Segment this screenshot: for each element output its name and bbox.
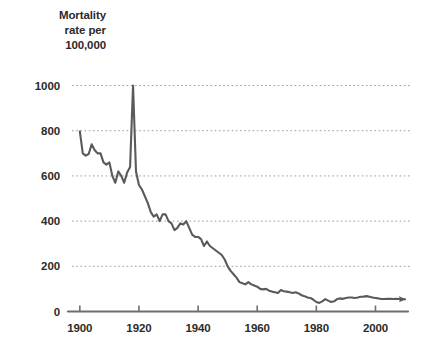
gridlines (72, 86, 410, 267)
mortality-data-line (80, 86, 405, 303)
y-axis-tick-label: 0 (12, 306, 60, 318)
y-axis-tick-label: 600 (12, 170, 60, 182)
x-axis-tick-label: 2000 (363, 322, 388, 334)
x-axis-tick-label: 1920 (126, 322, 151, 334)
y-axis-tick-label: 1000 (12, 80, 60, 92)
x-axis-tick-label: 1980 (304, 322, 329, 334)
chart-plot-area (0, 0, 430, 353)
x-axis-tick-label: 1900 (67, 322, 92, 334)
x-axis-tick-label: 1960 (245, 322, 270, 334)
mortality-rate-chart: Mortality rate per 100,000 0200400600800… (0, 0, 430, 353)
x-axis-tick-label: 1940 (185, 322, 210, 334)
y-axis-tick-label: 400 (12, 215, 60, 227)
y-axis-tick-label: 200 (12, 260, 60, 272)
y-axis-tick-label: 800 (12, 125, 60, 137)
